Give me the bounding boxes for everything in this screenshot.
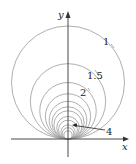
label-param-1: 1 — [103, 36, 109, 47]
circle-labels: 1 1.5 2 4 — [72, 36, 114, 137]
x-axis: x — [11, 137, 129, 153]
label-param-4: 4 — [106, 126, 112, 137]
circle-family-diagram: x y 1 1.5 2 4 — [0, 0, 136, 164]
y-axis-arrow-icon — [66, 11, 71, 18]
y-axis-label: y — [57, 9, 64, 20]
x-axis-label: x — [122, 141, 128, 152]
label-param-1-5: 1.5 — [87, 70, 103, 81]
label-param-2: 2 — [80, 87, 86, 98]
